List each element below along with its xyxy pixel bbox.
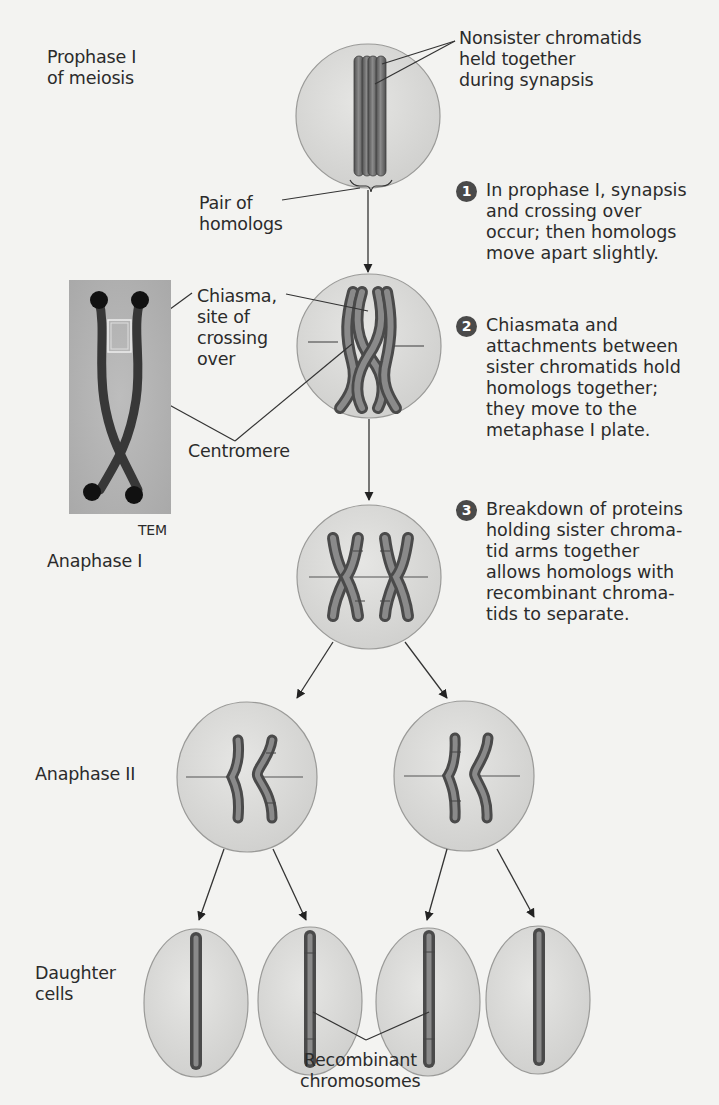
step-3-line: tid arms together [486, 541, 719, 562]
step-2-line: sister chromatids hold [486, 357, 719, 378]
tem-micrograph [69, 280, 171, 514]
prophase-label-line1: Prophase I [47, 47, 136, 68]
recombinant-line2: chromosomes [300, 1071, 421, 1092]
daughter-cells-label: Daughter cells [35, 963, 116, 1005]
chiasma-line1: Chiasma, [197, 286, 277, 307]
chiasma-line2: site of [197, 307, 277, 328]
step-1-line: move apart slightly. [486, 243, 719, 264]
nonsister-line3: during synapsis [459, 70, 641, 91]
prophase-label: Prophase I of meiosis [47, 47, 136, 89]
step-3: 3 Breakdown of proteins holding sister c… [486, 499, 719, 625]
daughter-cell-4 [486, 926, 590, 1074]
step-1-line: and crossing over [486, 201, 719, 222]
prophase-label-line2: of meiosis [47, 68, 136, 89]
homolog-pair-icon [354, 56, 386, 176]
anaphase1-label: Anaphase I [47, 551, 142, 572]
chiasma-line4: over [197, 349, 277, 370]
step-2-line: attachments between [486, 336, 719, 357]
recombinant-callout: Recombinant chromosomes [300, 1050, 421, 1092]
chiasma-line3: crossing [197, 328, 277, 349]
daughter-line1: Daughter [35, 963, 116, 984]
centromere-callout: Centromere [188, 441, 290, 462]
step-2-line: homologs together; [486, 378, 719, 399]
chiasma-callout: Chiasma, site of crossing over [197, 286, 277, 370]
step-1: 1 In prophase I, synapsis and crossing o… [486, 180, 719, 264]
step-3-line: tids to separate. [486, 604, 719, 625]
anaphase1-cell [297, 505, 441, 649]
pair-line2: homologs [199, 214, 283, 235]
step-3-line: holding sister chroma- [486, 520, 719, 541]
prophase-cell [296, 44, 440, 192]
step-1-line: In prophase I, synapsis [486, 180, 719, 201]
step-3-line: allows homologs with [486, 562, 719, 583]
step-3-line: recombinant chroma- [486, 583, 719, 604]
daughter-cell-1 [144, 929, 248, 1077]
nonsister-callout: Nonsister chromatids held together durin… [459, 28, 641, 91]
step-1-line: occur; then homologs [486, 222, 719, 243]
anaphase2-cell-left [177, 702, 317, 852]
nonsister-line1: Nonsister chromatids [459, 28, 641, 49]
step-number-badge: 3 [456, 500, 477, 521]
step-2-line: metaphase I plate. [486, 420, 719, 441]
tem-label: TEM [138, 520, 167, 541]
daughter-line2: cells [35, 984, 116, 1005]
step-number-badge: 1 [456, 181, 477, 202]
nonsister-line2: held together [459, 49, 641, 70]
meiosis-crossing-over-figure: Prophase I of meiosis Nonsister chromati… [0, 0, 719, 1105]
step-2-line: they move to the [486, 399, 719, 420]
step-number-badge: 2 [456, 316, 477, 337]
step-2-line: Chiasmata and [486, 315, 719, 336]
step-2: 2 Chiasmata and attachments between sist… [486, 315, 719, 441]
pair-of-homologs-callout: Pair of homologs [199, 193, 283, 235]
anaphase2-cell-right [394, 701, 534, 851]
recombinant-line1: Recombinant [300, 1050, 421, 1071]
crossing-over-cell [297, 274, 441, 418]
pair-line1: Pair of [199, 193, 283, 214]
step-3-line: Breakdown of proteins [486, 499, 719, 520]
anaphase2-label: Anaphase II [35, 764, 135, 785]
